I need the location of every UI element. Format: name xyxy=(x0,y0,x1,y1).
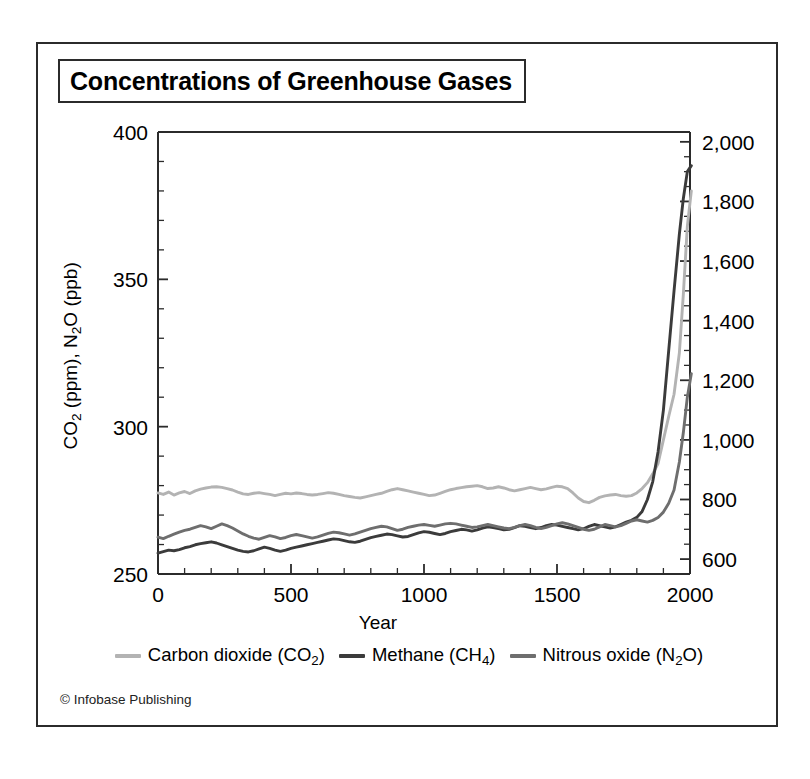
x-tick-label: 1500 xyxy=(534,583,581,606)
copyright-notice: © Infobase Publishing xyxy=(60,692,192,707)
legend-label-n2o: Nitrous oxide (N2O) xyxy=(543,644,704,668)
y-tick-label-right: 1,400 xyxy=(702,310,755,333)
legend-item-co2: Carbon dioxide (CO2) xyxy=(115,644,325,668)
x-tick-label: 500 xyxy=(273,583,308,606)
x-tick-label: 1000 xyxy=(401,583,448,606)
y-tick-label-right: 600 xyxy=(702,548,737,571)
y-tick-label-right: 1,600 xyxy=(702,250,755,273)
y-tick-label-right: 1,200 xyxy=(702,369,755,392)
figure-frame: Concentrations of Greenhouse Gases 05001… xyxy=(36,42,778,727)
y-tick-label-right: 2,000 xyxy=(702,131,755,154)
y-tick-label-left: 250 xyxy=(113,563,148,586)
legend-swatch-ch4 xyxy=(339,654,365,658)
y-tick-label-left: 350 xyxy=(113,268,148,291)
legend-swatch-co2 xyxy=(115,654,141,658)
y-tick-label-right: 1,800 xyxy=(702,190,755,213)
chart-legend: Carbon dioxide (CO2) Methane (CH4) Nitro… xyxy=(38,644,780,668)
legend-item-n2o: Nitrous oxide (N2O) xyxy=(510,644,704,668)
legend-item-ch4: Methane (CH4) xyxy=(339,644,496,668)
y-tick-label-left: 300 xyxy=(113,416,148,439)
plot-area: 05001000150020002503003504006008001,0001… xyxy=(38,44,780,729)
x-tick-label: 0 xyxy=(152,583,164,606)
legend-swatch-n2o xyxy=(510,654,536,658)
legend-label-co2: Carbon dioxide (CO2) xyxy=(148,644,325,668)
x-axis-label: Year xyxy=(38,612,718,634)
y-tick-label-right: 1,000 xyxy=(702,429,755,452)
legend-label-ch4: Methane (CH4) xyxy=(372,644,496,668)
y-tick-label-left: 400 xyxy=(113,121,148,144)
series-line-nitrous-oxide-n2o xyxy=(158,374,691,540)
series-line-carbon-dioxide-co2 xyxy=(158,191,691,503)
y-axis-label: CO2 (ppm), N2O (ppb) xyxy=(60,226,84,486)
y-tick-label-right: 800 xyxy=(702,488,737,511)
x-tick-label: 2000 xyxy=(667,583,714,606)
